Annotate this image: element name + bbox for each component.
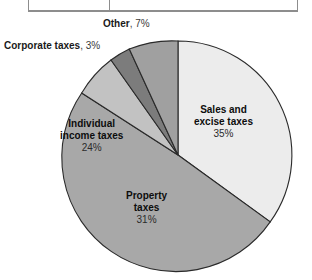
- pie-label-property-line1: Property: [126, 190, 167, 202]
- pie-label-other-percent: 7%: [135, 18, 149, 29]
- pie-label-individual-percent: 24%: [60, 142, 123, 154]
- pie-label-individual-line2: income taxes: [60, 130, 123, 142]
- pie-label-corporate-taxes: Corporate taxes, 3%: [4, 40, 100, 52]
- pie-label-other: Other, 7%: [103, 18, 150, 30]
- pie-label-individual-income-taxes: Individual income taxes 24%: [60, 118, 123, 154]
- pie-label-sales-and-excise-taxes: Sales and excise taxes 35%: [194, 104, 253, 140]
- pie-label-other-name: Other: [103, 18, 130, 29]
- pie-label-sales-line1: Sales and: [194, 104, 253, 116]
- pie-label-individual-line1: Individual: [60, 118, 123, 130]
- pie-label-property-taxes: Property taxes 31%: [126, 190, 167, 226]
- pie-label-property-line2: taxes: [126, 202, 167, 214]
- pie-label-property-percent: 31%: [126, 214, 167, 226]
- pie-label-sales-line2: excise taxes: [194, 116, 253, 128]
- pie-slices: [62, 41, 292, 272]
- pie-label-corporate-taxes-percent: 3%: [86, 40, 100, 51]
- pie-label-corporate-taxes-name: Corporate taxes: [4, 40, 80, 51]
- pie-label-sales-percent: 35%: [194, 128, 253, 140]
- pie-chart: Other, 7% Corporate taxes, 3% Sales and …: [0, 0, 312, 280]
